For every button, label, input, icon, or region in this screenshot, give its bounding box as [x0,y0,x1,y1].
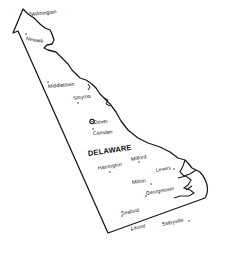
coast-detail [88,84,110,106]
city-label-dover: Dover [94,119,108,125]
inland-bays [174,176,194,198]
